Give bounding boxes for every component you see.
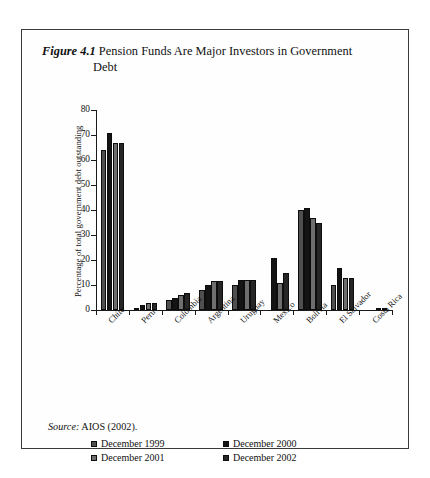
bar	[107, 133, 113, 311]
bar	[134, 308, 140, 311]
x-axis-tick	[195, 310, 196, 315]
legend-label: December 2002	[233, 452, 297, 463]
bar	[238, 280, 244, 310]
x-axis-tick	[293, 310, 294, 315]
figure-title-line-1: Pension Funds Are Major Investors in Gov…	[99, 44, 352, 58]
x-axis-tick	[96, 310, 97, 315]
chart-legend: December 1999December 2000December 2001D…	[22, 438, 410, 466]
bar	[205, 285, 211, 310]
bar	[140, 305, 146, 310]
bar-group	[298, 110, 322, 310]
y-axis-tick	[91, 110, 96, 111]
bar	[101, 150, 107, 310]
legend-label: December 2001	[101, 452, 165, 463]
figure-frame: Figure 4.1 Pension Funds Are Major Inves…	[21, 29, 409, 449]
legend-label: December 2000	[233, 438, 297, 449]
y-axis-tick	[91, 260, 96, 261]
y-axis-tick-label: 30	[50, 229, 90, 239]
chart-axes: 01020304050607080	[96, 110, 392, 310]
bar	[304, 208, 310, 311]
bar	[172, 298, 178, 311]
legend-swatch-icon	[91, 441, 97, 447]
bar-group	[265, 110, 289, 310]
y-axis-tick	[91, 285, 96, 286]
legend-item: December 2001	[91, 452, 209, 463]
y-axis-tick	[91, 210, 96, 211]
bar	[337, 268, 343, 311]
x-axis-category-labels: ChilePeruColombiaArgentinaUruguayMexicoB…	[96, 318, 392, 388]
y-axis-tick-label: 40	[50, 204, 90, 214]
legend-row: December 2001December 2002	[22, 452, 410, 463]
bar	[316, 223, 322, 311]
source-label: Source:	[48, 421, 79, 432]
legend-swatch-icon	[91, 455, 97, 461]
y-axis-tick-label: 10	[50, 279, 90, 289]
bar	[298, 210, 304, 310]
y-axis-tick-label: 0	[50, 304, 90, 314]
y-axis-tick	[91, 160, 96, 161]
legend-swatch-icon	[223, 455, 229, 461]
bar-group	[199, 110, 223, 310]
bar	[166, 300, 172, 310]
bar	[331, 285, 337, 310]
bar-group	[101, 110, 125, 310]
legend-item: December 1999	[91, 438, 209, 449]
bar-group	[232, 110, 256, 310]
x-axis-tick	[260, 310, 261, 315]
legend-row: December 1999December 2000	[22, 438, 410, 449]
figure-title-line-2: Debt	[42, 60, 390, 76]
bar	[271, 258, 277, 311]
y-axis-tick	[91, 235, 96, 236]
y-axis-tick-label: 60	[50, 154, 90, 164]
source-text: AIOS (2002).	[81, 421, 137, 432]
x-axis-tick	[162, 310, 163, 315]
bar-group	[166, 110, 190, 310]
figure-title: Figure 4.1 Pension Funds Are Major Inves…	[42, 44, 390, 75]
y-axis-line	[96, 110, 97, 310]
y-axis-tick-label: 50	[50, 179, 90, 189]
bar-group	[364, 110, 388, 310]
x-axis-tick	[129, 310, 130, 315]
bar-group	[134, 110, 158, 310]
legend-item: December 2000	[223, 438, 341, 449]
bar-group	[331, 110, 355, 310]
y-axis-tick-label: 20	[50, 254, 90, 264]
bar	[310, 218, 316, 311]
legend-item: December 2002	[223, 452, 341, 463]
x-axis-tick	[228, 310, 229, 315]
y-axis-tick-label: 70	[50, 129, 90, 139]
bar	[113, 143, 119, 311]
y-axis-tick	[91, 135, 96, 136]
legend-swatch-icon	[223, 441, 229, 447]
source-note: Source: AIOS (2002).	[48, 421, 137, 432]
y-axis-tick	[91, 185, 96, 186]
legend-label: December 1999	[101, 438, 165, 449]
bar	[343, 278, 349, 311]
plot-area: Percentage of total government debt outs…	[22, 102, 410, 402]
y-axis-tick-label: 80	[50, 104, 90, 114]
x-axis-tick	[392, 310, 393, 315]
figure-number: Figure 4.1	[42, 44, 96, 58]
x-axis-tick	[359, 310, 360, 315]
x-axis-tick	[326, 310, 327, 315]
bar	[119, 143, 125, 311]
